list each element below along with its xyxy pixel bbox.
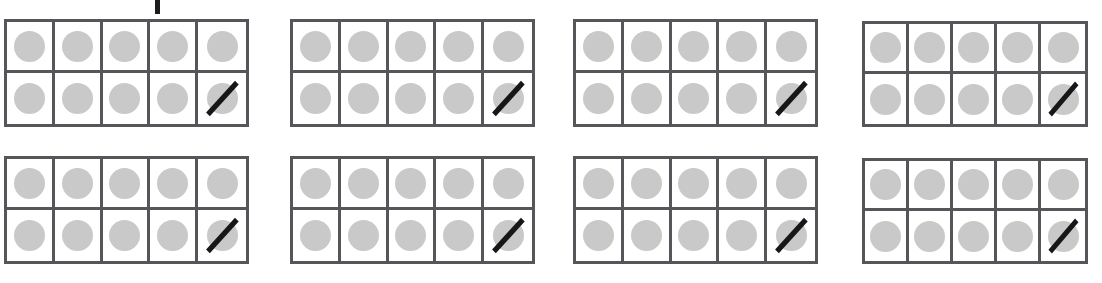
- counter-circle-icon: [914, 84, 945, 115]
- counter-circle-icon: [726, 31, 757, 62]
- counter-circle-icon: [14, 220, 45, 251]
- counter-circle-icon: [109, 220, 140, 251]
- counter-circle-icon: [207, 31, 238, 62]
- ten-frame-cell: [293, 159, 341, 210]
- counter-circle-icon: [395, 168, 426, 199]
- ten-frame-cell: [767, 159, 815, 210]
- counter-circle-icon: [1048, 169, 1079, 200]
- ten-frame-cell: [865, 211, 909, 261]
- ten-frame-cell: [436, 159, 484, 210]
- counter-circle-icon: [958, 32, 989, 63]
- counter-circle-icon: [207, 168, 238, 199]
- counter-circle-icon: [776, 168, 807, 199]
- counter-circle-icon: [157, 168, 188, 199]
- ten-frame-cell: [484, 73, 532, 124]
- counter-circle-icon: [300, 220, 331, 251]
- ten-frame-cell: [719, 159, 767, 210]
- counter-circle-icon: [914, 32, 945, 63]
- counter-circle-icon: [1002, 84, 1033, 115]
- ten-frame-6: [290, 156, 535, 264]
- counter-circle-icon: [776, 83, 807, 114]
- ten-frame-cell: [55, 73, 103, 124]
- counter-circle-icon: [157, 31, 188, 62]
- ten-frame-cell: [341, 210, 389, 261]
- ten-frame-cell: [953, 74, 997, 124]
- counter-circle-icon: [958, 169, 989, 200]
- ten-frame-cell: [624, 73, 672, 124]
- ten-frame-cell: [1041, 161, 1085, 211]
- counter-circle-icon: [62, 168, 93, 199]
- ten-frame-cell: [436, 22, 484, 73]
- counter-circle-icon: [300, 83, 331, 114]
- ten-frame-cell: [198, 73, 246, 124]
- counter-circle-icon: [583, 31, 614, 62]
- counter-circle-icon: [583, 83, 614, 114]
- counter-circle-icon: [678, 168, 709, 199]
- counter-circle-icon: [443, 31, 474, 62]
- ten-frame-cell: [341, 159, 389, 210]
- ten-frame-cell: [7, 210, 55, 261]
- ten-frame-cell: [1041, 74, 1085, 124]
- ten-frame-3: [573, 19, 818, 127]
- ten-frame-cell: [624, 210, 672, 261]
- ten-frame-cell: [341, 22, 389, 73]
- counter-circle-icon: [443, 83, 474, 114]
- counter-circle-icon: [631, 168, 662, 199]
- counter-circle-icon: [870, 221, 901, 252]
- counter-circle-icon: [348, 168, 379, 199]
- ten-frame-cell: [719, 22, 767, 73]
- counter-circle-icon: [62, 31, 93, 62]
- counter-circle-icon: [493, 83, 524, 114]
- worksheet-canvas: [0, 0, 1102, 283]
- counter-circle-icon: [62, 220, 93, 251]
- counter-circle-icon: [109, 83, 140, 114]
- counter-circle-icon: [1002, 32, 1033, 63]
- ten-frame-cell: [865, 24, 909, 74]
- ten-frame-cell: [767, 22, 815, 73]
- counter-circle-icon: [348, 220, 379, 251]
- ten-frame-cell: [484, 22, 532, 73]
- ten-frame-cell: [997, 74, 1041, 124]
- ten-frame-cell: [389, 73, 437, 124]
- ten-frame-cell: [103, 210, 151, 261]
- ten-frame-cell: [719, 73, 767, 124]
- counter-circle-icon: [493, 168, 524, 199]
- ten-frame-cell: [865, 161, 909, 211]
- counter-circle-icon: [870, 169, 901, 200]
- counter-circle-icon: [1048, 84, 1079, 115]
- ten-frame-cell: [341, 73, 389, 124]
- counter-circle-icon: [300, 168, 331, 199]
- ten-frame-cell: [436, 73, 484, 124]
- counter-circle-icon: [870, 32, 901, 63]
- ten-frame-cell: [198, 210, 246, 261]
- pencil-tick-mark: [155, 0, 160, 14]
- counter-circle-icon: [62, 83, 93, 114]
- ten-frame-cell: [1041, 24, 1085, 74]
- ten-frame-cell: [55, 210, 103, 261]
- ten-frame-cell: [997, 161, 1041, 211]
- ten-frame-cell: [198, 159, 246, 210]
- ten-frame-5: [4, 156, 249, 264]
- counter-circle-icon: [14, 83, 45, 114]
- counter-circle-icon: [14, 168, 45, 199]
- ten-frame-cell: [55, 159, 103, 210]
- ten-frame-cell: [576, 22, 624, 73]
- counter-circle-icon: [1002, 221, 1033, 252]
- counter-circle-icon: [958, 84, 989, 115]
- counter-circle-icon: [914, 221, 945, 252]
- ten-frame-cell: [865, 74, 909, 124]
- counter-circle-icon: [1002, 169, 1033, 200]
- ten-frame-cell: [767, 210, 815, 261]
- counter-circle-icon: [443, 168, 474, 199]
- ten-frame-cell: [1041, 211, 1085, 261]
- ten-frame-cell: [672, 22, 720, 73]
- counter-circle-icon: [157, 83, 188, 114]
- counter-circle-icon: [395, 31, 426, 62]
- ten-frame-cell: [624, 159, 672, 210]
- counter-circle-icon: [1048, 32, 1079, 63]
- counter-circle-icon: [958, 221, 989, 252]
- ten-frame-cell: [484, 210, 532, 261]
- counter-circle-icon: [395, 83, 426, 114]
- counter-circle-icon: [726, 83, 757, 114]
- ten-frame-cell: [672, 73, 720, 124]
